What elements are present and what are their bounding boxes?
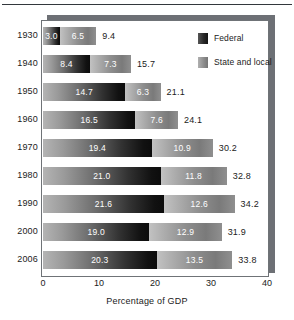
bar-total-label: 33.8 <box>238 251 256 269</box>
bar-segment-value-federal: 19.0 <box>43 223 149 241</box>
legend-item-label: State and local <box>214 57 272 67</box>
bar-segment-value-state-and-local: 7.3 <box>90 55 131 73</box>
bar-segment-value-federal: 16.5 <box>43 111 135 129</box>
row-year-label: 1980 <box>0 162 38 189</box>
bar-row: 195014.76.321.1 <box>0 78 294 105</box>
bar-segment-value-state-and-local: 11.8 <box>161 167 227 185</box>
bar-segment-state-and-local: 7.6 <box>135 111 178 129</box>
stacked-bar: 3.06.5 <box>43 27 96 45</box>
legend-item[interactable]: State and local <box>198 53 290 71</box>
row-year-label: 1970 <box>0 134 38 161</box>
chart-legend: FederalState and local <box>198 29 290 77</box>
bar-row: 197019.410.930.2 <box>0 134 294 161</box>
bar-segment-state-and-local: 11.8 <box>161 167 227 185</box>
bar-segment-value-state-and-local: 12.9 <box>149 223 221 241</box>
x-axis-tick-label: 10 <box>87 278 111 288</box>
bar-segment-federal: 19.4 <box>43 139 152 157</box>
bar-row: 199021.612.634.2 <box>0 190 294 217</box>
bar-segment-value-state-and-local: 13.5 <box>157 251 233 269</box>
bar-segment-value-state-and-local: 12.6 <box>164 195 235 213</box>
bar-segment-value-state-and-local: 10.9 <box>152 139 213 157</box>
x-axis-title: Percentage of GDP <box>0 296 294 306</box>
stacked-bar: 14.76.3 <box>43 83 161 101</box>
x-axis-tick-labels: 010203040 <box>0 278 294 290</box>
legend-item-label: Federal <box>214 33 244 43</box>
bar-segment-value-federal: 21.6 <box>43 195 164 213</box>
row-year-label: 2000 <box>0 218 38 245</box>
row-year-label: 1950 <box>0 78 38 105</box>
bar-segment-value-federal: 21.0 <box>43 167 161 185</box>
x-axis-tick-label: 20 <box>143 278 167 288</box>
legend-item[interactable]: Federal <box>198 29 290 47</box>
row-year-label: 1940 <box>0 50 38 77</box>
stacked-bar: 8.47.3 <box>43 55 131 73</box>
x-axis-tick-label: 30 <box>199 278 223 288</box>
stacked-bar: 19.410.9 <box>43 139 213 157</box>
row-year-label: 1960 <box>0 106 38 133</box>
top-divider-rule <box>2 4 292 5</box>
bar-total-label: 24.1 <box>184 111 202 129</box>
row-year-label: 2006 <box>0 246 38 273</box>
bar-segment-federal: 3.0 <box>43 27 60 45</box>
bar-total-label: 9.4 <box>102 27 115 45</box>
bar-segment-value-state-and-local: 6.5 <box>60 27 96 45</box>
bar-segment-value-federal: 8.4 <box>43 55 90 73</box>
x-axis-tick-label: 40 <box>255 278 279 288</box>
stacked-bar: 19.012.9 <box>43 223 222 241</box>
bar-row: 196016.57.624.1 <box>0 106 294 133</box>
bar-total-label: 15.7 <box>137 55 155 73</box>
bar-segment-federal: 16.5 <box>43 111 135 129</box>
row-year-label: 1990 <box>0 190 38 217</box>
bar-row: 200620.313.533.8 <box>0 246 294 273</box>
bar-segment-state-and-local: 10.9 <box>152 139 213 157</box>
bar-segment-value-state-and-local: 6.3 <box>125 83 160 101</box>
stacked-bar: 21.011.8 <box>43 167 227 185</box>
bar-segment-state-and-local: 12.9 <box>149 223 221 241</box>
bar-segment-federal: 19.0 <box>43 223 149 241</box>
bar-total-label: 34.2 <box>241 195 259 213</box>
stacked-bar: 21.612.6 <box>43 195 235 213</box>
bar-segment-state-and-local: 6.3 <box>125 83 160 101</box>
bar-total-label: 21.1 <box>167 83 185 101</box>
bar-segment-federal: 20.3 <box>43 251 157 269</box>
bar-segment-state-and-local: 6.5 <box>60 27 96 45</box>
federal-swatch-icon <box>198 33 208 44</box>
bar-segment-value-federal: 20.3 <box>43 251 157 269</box>
row-year-label: 1930 <box>0 22 38 49</box>
x-axis-tick-label: 0 <box>31 278 55 288</box>
bar-segment-value-federal: 3.0 <box>43 27 60 45</box>
stacked-bar: 16.57.6 <box>43 111 178 129</box>
chart-figure: 19303.06.59.419408.47.315.7195014.76.321… <box>0 0 294 320</box>
state-and-local-swatch-icon <box>198 57 208 68</box>
bar-segment-federal: 8.4 <box>43 55 90 73</box>
bar-segment-federal: 21.0 <box>43 167 161 185</box>
bar-segment-federal: 21.6 <box>43 195 164 213</box>
bar-segment-federal: 14.7 <box>43 83 125 101</box>
bar-row: 200019.012.931.9 <box>0 218 294 245</box>
bar-total-label: 32.8 <box>233 167 251 185</box>
bar-segment-state-and-local: 12.6 <box>164 195 235 213</box>
bar-total-label: 31.9 <box>228 223 246 241</box>
bar-segment-state-and-local: 13.5 <box>157 251 233 269</box>
stacked-bar: 20.313.5 <box>43 251 232 269</box>
bar-segment-value-federal: 14.7 <box>43 83 125 101</box>
bar-segment-value-federal: 19.4 <box>43 139 152 157</box>
bar-total-label: 30.2 <box>219 139 237 157</box>
bar-segment-value-state-and-local: 7.6 <box>135 111 178 129</box>
bar-row: 198021.011.832.8 <box>0 162 294 189</box>
bar-segment-state-and-local: 7.3 <box>90 55 131 73</box>
